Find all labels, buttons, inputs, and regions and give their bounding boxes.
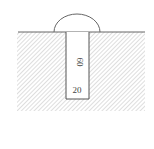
semicircle-cap [54, 14, 100, 32]
width-label: 20 [73, 85, 83, 95]
hatched-solid-bottom [66, 99, 89, 111]
cross-section-diagram: 60 20 [0, 0, 154, 149]
hatched-solid-left [17, 32, 66, 111]
hatched-solid-right [89, 32, 145, 111]
depth-label: 60 [75, 58, 85, 68]
